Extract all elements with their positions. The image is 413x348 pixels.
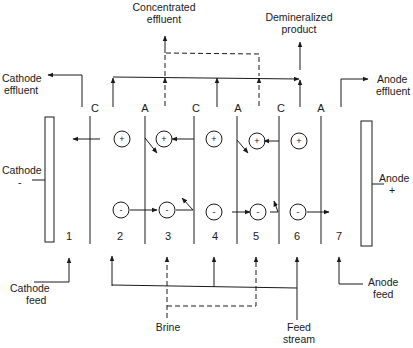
brine-manifold (167, 257, 256, 306)
anion-sign-6: - (297, 207, 300, 217)
membrane-label-a2: A (234, 102, 242, 114)
cathode-effluent-arrow (48, 75, 82, 107)
cation-sign-2: + (119, 134, 124, 144)
compartment-1: 1 (66, 230, 72, 242)
compartment-6: 6 (294, 230, 300, 242)
compartment-4: 4 (212, 230, 218, 242)
membrane-label-c1: C (91, 102, 99, 114)
membrane-label-a3: A (317, 102, 325, 114)
anode-feed-label-1: Anode (368, 276, 399, 288)
demineralized-product-label-2: product (281, 23, 316, 35)
compartment-7: 7 (336, 230, 342, 242)
feed-stream-label-2: stream (283, 333, 315, 345)
compartment-5: 5 (253, 230, 259, 242)
cation-reject-a2 (237, 140, 248, 153)
cation-sign-3: + (161, 134, 166, 144)
anion-reject-c2-diag (182, 198, 193, 210)
anode-electrode (361, 121, 372, 246)
cation-reject-a1 (145, 138, 157, 153)
anion-sign-4: - (213, 207, 216, 217)
anode-sign: + (389, 184, 395, 196)
anode-effluent-label-2: effluent (376, 85, 410, 97)
anode-label: Anode (379, 172, 410, 184)
cathode-sign: - (18, 176, 22, 188)
cathode-effluent-label-1: Cathode (2, 72, 42, 84)
anion-sign-5: - (257, 207, 260, 217)
membrane-label-c3: C (277, 102, 285, 114)
compartment-3: 3 (165, 230, 171, 242)
product-header-line (113, 77, 299, 79)
cathode-effluent-label-2: effluent (4, 84, 38, 96)
cathode-feed-line (34, 258, 69, 282)
feed-manifold (112, 285, 297, 288)
cathode-feed-label-2: feed (26, 294, 47, 306)
anode-effluent-arrow (341, 79, 368, 107)
electrodialysis-diagram: Concentrated effluent Demineralized prod… (0, 0, 413, 348)
cathode-feed-label-1: Cathode (10, 282, 50, 294)
membrane-label-c2: C (192, 102, 200, 114)
cation-sign-5: + (254, 136, 259, 146)
membrane-label-a1: A (141, 102, 149, 114)
cathode-electrode (45, 117, 54, 242)
conc-header-line (165, 53, 259, 76)
cathode-label: Cathode (2, 164, 42, 176)
compartment-2: 2 (117, 230, 123, 242)
anode-effluent-label-1: Anode (377, 73, 408, 85)
anode-feed-line (339, 257, 363, 284)
concentrated-effluent-label-1: Concentrated (132, 1, 195, 13)
feed-stream-label-1: Feed (287, 321, 311, 333)
anion-sign-2: - (120, 205, 123, 215)
demineralized-product-label-1: Demineralized (265, 11, 332, 23)
anode-feed-label-2: feed (373, 288, 394, 300)
brine-label: Brine (156, 321, 181, 333)
cation-sign-6: + (296, 136, 301, 146)
concentrated-effluent-label-2: effluent (147, 13, 181, 25)
anion-reject-c3-diag (274, 201, 278, 212)
anion-sign-3: - (166, 205, 169, 215)
cation-sign-4: + (211, 134, 216, 144)
